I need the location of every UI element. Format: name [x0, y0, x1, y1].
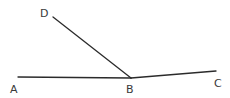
segment-bd [53, 17, 131, 78]
segment-bc [131, 71, 216, 78]
angle-diagram: A B C D [0, 0, 230, 98]
segment-ab [18, 77, 131, 78]
point-label-b: B [126, 83, 134, 96]
point-label-d: D [40, 7, 48, 20]
point-label-a: A [10, 83, 18, 96]
point-label-c: C [214, 77, 222, 90]
